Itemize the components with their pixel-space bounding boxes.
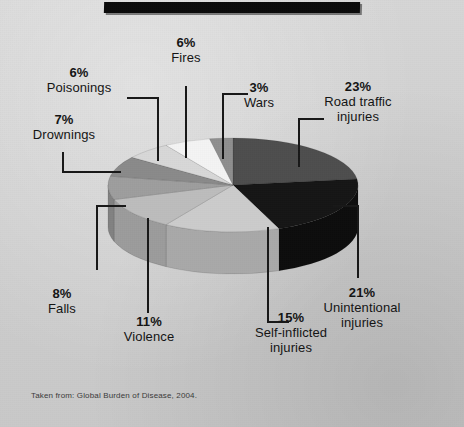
- label-wars-name: Wars: [216, 96, 302, 111]
- pie-slice-road-traffic-injuries: [233, 138, 357, 185]
- label-selfinflicted-name2: injuries: [231, 341, 351, 356]
- label-drownings: 7% Drownings: [4, 113, 124, 143]
- label-falls-name: Falls: [29, 302, 95, 317]
- label-violence-pct: 11%: [101, 315, 197, 330]
- leader-line-poisonings-v: [157, 97, 159, 161]
- label-poisonings-name: Poisonings: [19, 81, 139, 96]
- label-self-inflicted-injuries: 15% Self-inflicted injuries: [231, 311, 351, 355]
- leader-line-drownings-stub: [62, 152, 64, 173]
- label-violence: 11% Violence: [101, 315, 197, 345]
- label-road-name2: injuries: [293, 110, 423, 125]
- label-road-pct: 23%: [293, 80, 423, 95]
- label-drownings-name: Drownings: [4, 128, 124, 143]
- leader-line-unintentional: [357, 205, 359, 278]
- label-selfinflicted-pct: 15%: [231, 311, 351, 326]
- label-falls-pct: 8%: [29, 287, 95, 302]
- leader-line-violence: [147, 218, 149, 313]
- label-violence-name: Violence: [101, 330, 197, 345]
- leader-line-road-v: [298, 118, 300, 167]
- leader-line-drownings-h: [62, 171, 121, 173]
- label-road-name1: Road traffic: [293, 95, 423, 110]
- leader-line-falls-v: [96, 205, 98, 270]
- source-caption: Taken from: Global Burden of Disease, 20…: [31, 391, 197, 400]
- label-poisonings: 6% Poisonings: [19, 66, 139, 96]
- label-unintentional-pct: 21%: [297, 286, 427, 301]
- label-drownings-pct: 7%: [4, 113, 124, 128]
- label-road-traffic-injuries: 23% Road traffic injuries: [293, 80, 423, 124]
- label-falls: 8% Falls: [29, 287, 95, 317]
- label-wars-pct: 3%: [216, 81, 302, 96]
- label-selfinflicted-name1: Self-inflicted: [231, 326, 351, 341]
- label-wars: 3% Wars: [216, 81, 302, 111]
- leader-line-poisonings-h: [127, 97, 159, 99]
- leader-line-selfinflicted-v: [267, 227, 269, 323]
- label-poisonings-pct: 6%: [19, 66, 139, 81]
- label-fires: 6% Fires: [141, 36, 231, 66]
- leader-line-unint-h: [333, 205, 359, 207]
- leader-line-falls-h: [96, 205, 126, 207]
- pie-top-faces: [108, 138, 358, 232]
- leader-line-fires: [185, 86, 187, 158]
- label-fires-name: Fires: [141, 51, 231, 66]
- label-fires-pct: 6%: [141, 36, 231, 51]
